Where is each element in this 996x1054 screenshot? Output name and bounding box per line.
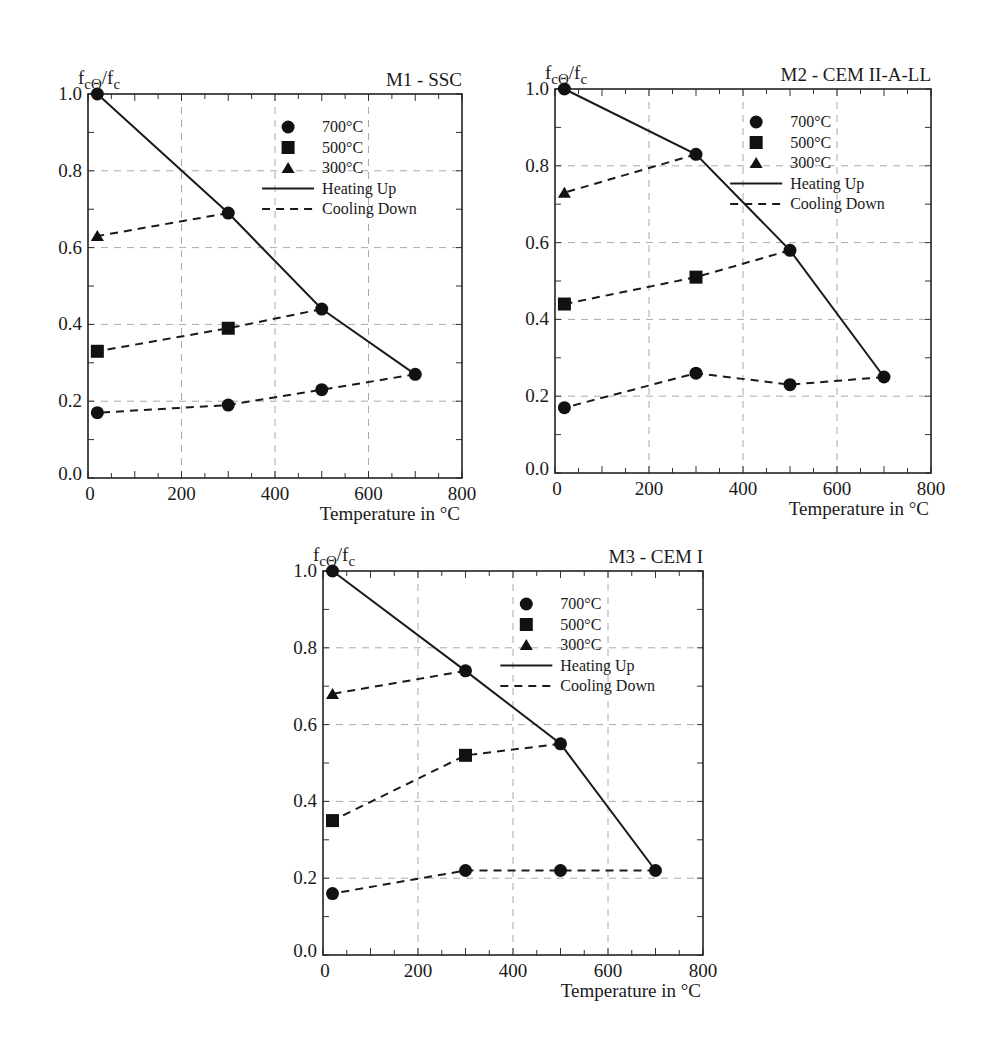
y-tick-label: 0.6	[525, 232, 549, 253]
x-tick-label: 0	[320, 960, 330, 981]
chart-panel-3: 02004006008000.00.20.40.60.81.0Temperatu…	[293, 544, 717, 1001]
y-label-slash: /f	[337, 544, 349, 565]
legend-label: 700°C	[790, 113, 831, 130]
heating-up-line	[97, 94, 415, 374]
figure-canvas: 02004006008000.00.20.40.60.81.0Temperatu…	[0, 0, 996, 1054]
legend-label: 700°C	[560, 595, 601, 612]
legend: 700°C500°C300°CHeating UpCooling Down	[730, 113, 885, 213]
grid-lines	[555, 89, 931, 473]
x-tick-label: 200	[635, 478, 664, 499]
y-label-slash: /f	[569, 62, 581, 83]
x-tick-label: 600	[354, 483, 383, 504]
square-marker-icon	[459, 749, 472, 762]
x-tick-label: 0	[85, 483, 95, 504]
charts-root: 02004006008000.00.20.40.60.81.0Temperatu…	[58, 62, 945, 1001]
y-tick-label: 0.4	[525, 308, 549, 329]
legend-label: Heating Up	[790, 175, 864, 193]
legend-square-icon	[750, 136, 763, 149]
circle-marker-icon	[315, 303, 328, 316]
x-tick-label: 800	[917, 478, 946, 499]
legend-circle-icon	[520, 598, 533, 611]
panel-title: M1 - SSC	[386, 69, 462, 90]
circle-marker-icon	[784, 244, 797, 257]
y-tick-label: 0.6	[58, 237, 82, 258]
y-label-sub2: c	[580, 71, 587, 87]
heating-up-line	[564, 89, 884, 377]
y-label-sub2: c	[348, 553, 355, 569]
legend-label: Cooling Down	[790, 195, 885, 213]
y-tick-label: 0.0	[293, 940, 317, 961]
cooling-down-line	[333, 871, 656, 894]
legend-label: 300°C	[322, 159, 363, 176]
circle-marker-icon	[315, 383, 328, 396]
circle-marker-icon	[409, 368, 422, 381]
cooling-down-line	[333, 744, 561, 821]
legend: 700°C500°C300°CHeating UpCooling Down	[500, 595, 655, 695]
circle-marker-icon	[222, 399, 235, 412]
cooling-down-line	[333, 671, 466, 694]
circle-marker-icon	[326, 565, 339, 578]
circle-marker-icon	[91, 88, 104, 101]
circle-marker-icon	[649, 864, 662, 877]
y-tick-label: 0.2	[293, 867, 317, 888]
panel-title: M2 - CEM II-A-LL	[781, 64, 931, 85]
panel-title: M3 - CEM I	[609, 546, 703, 567]
y-tick-label: 0.8	[293, 637, 317, 658]
series-markers	[91, 88, 422, 420]
x-tick-label: 400	[499, 960, 528, 981]
legend-label: Cooling Down	[560, 677, 655, 695]
y-label-sub2: c	[113, 76, 120, 92]
cooling-down-line	[97, 309, 321, 351]
square-marker-icon	[91, 345, 104, 358]
cooling-down-line	[97, 213, 228, 236]
circle-marker-icon	[554, 737, 567, 750]
cooling-down-line	[564, 250, 790, 304]
x-tick-label: 400	[729, 478, 758, 499]
series-lines	[97, 94, 415, 413]
circle-marker-icon	[784, 378, 797, 391]
circle-marker-icon	[91, 406, 104, 419]
y-label-slash: /f	[102, 67, 114, 88]
y-tick-label: 0.8	[525, 155, 549, 176]
cooling-down-line	[564, 154, 696, 192]
circle-marker-icon	[554, 864, 567, 877]
legend-label: 500°C	[560, 616, 601, 633]
grid-lines	[323, 571, 703, 955]
legend-triangle-icon	[520, 639, 533, 650]
legend-label: 300°C	[790, 154, 831, 171]
legend-triangle-icon	[282, 162, 295, 173]
y-tick-label: 0.2	[525, 385, 549, 406]
legend-label: 700°C	[322, 118, 363, 135]
x-tick-label: 400	[261, 483, 290, 504]
x-tick-label: 600	[594, 960, 623, 981]
y-tick-label: 0.6	[293, 714, 317, 735]
circle-marker-icon	[690, 367, 703, 380]
legend-circle-icon	[282, 121, 295, 134]
x-tick-label: 200	[167, 483, 196, 504]
chart-panel-2: 02004006008000.00.20.40.60.81.0Temperatu…	[525, 62, 945, 519]
legend-circle-icon	[750, 116, 763, 129]
x-tick-label: 800	[689, 960, 718, 981]
x-axis-title: Temperature in °C	[789, 498, 929, 519]
series-lines	[564, 89, 884, 408]
series-markers	[558, 83, 891, 415]
circle-marker-icon	[459, 664, 472, 677]
y-tick-label: 0.4	[58, 313, 82, 334]
y-tick-label: 0.4	[293, 790, 317, 811]
circle-marker-icon	[558, 401, 571, 414]
legend-square-icon	[520, 618, 533, 631]
y-tick-label: 0.2	[58, 390, 82, 411]
square-marker-icon	[222, 322, 235, 335]
circle-marker-icon	[222, 207, 235, 220]
series-markers	[326, 565, 662, 901]
circle-marker-icon	[326, 887, 339, 900]
x-tick-label: 800	[448, 483, 477, 504]
legend-label: Heating Up	[560, 657, 634, 675]
y-tick-label: 0.0	[58, 463, 82, 484]
y-tick-label: 0.0	[525, 458, 549, 479]
chart-panel-1: 02004006008000.00.20.40.60.81.0Temperatu…	[58, 67, 476, 524]
square-marker-icon	[326, 814, 339, 827]
x-axis-title: Temperature in °C	[320, 503, 460, 524]
legend-label: 500°C	[322, 139, 363, 156]
legend-triangle-icon	[750, 157, 763, 168]
